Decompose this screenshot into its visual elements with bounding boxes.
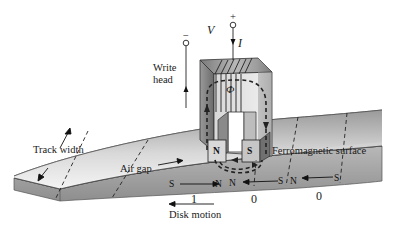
current-arrow: [231, 39, 236, 45]
surface-pole: N: [215, 179, 222, 189]
voltage-label: V: [207, 25, 214, 36]
write-head: [200, 58, 272, 162]
bit-value: 0: [316, 190, 322, 202]
surface-pole: N: [290, 176, 297, 186]
surface-pole: S: [334, 173, 339, 183]
bit-value: 1: [191, 193, 197, 205]
surface-pole: S: [169, 179, 174, 189]
write-head-label-line2: head: [153, 74, 173, 85]
track-width-label: Track width: [33, 144, 84, 155]
flux-label: Φ: [226, 84, 234, 95]
air-gap-label: Air gap: [120, 163, 152, 174]
head-pole-s: S: [247, 146, 252, 156]
ferromagnetic-surface-label: Ferromagnetic surface: [272, 145, 366, 156]
write-head-label-line1: Write: [153, 62, 176, 73]
head-pole-n: N: [213, 146, 220, 156]
plus-terminal-label: +: [230, 11, 236, 22]
diagram-canvas: [0, 0, 398, 233]
current-label: I: [238, 38, 242, 49]
bit-value: 0: [251, 193, 257, 205]
minus-terminal-label: −: [183, 30, 189, 41]
surface-pole: S: [278, 176, 283, 186]
surface-pole: N: [229, 178, 236, 188]
wire-up-arrow: [184, 86, 189, 92]
disk-motion-label: Disk motion: [169, 209, 221, 220]
